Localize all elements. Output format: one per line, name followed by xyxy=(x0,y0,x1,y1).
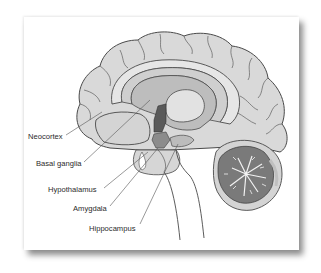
label-hippocampus: Hippocampus xyxy=(89,224,136,233)
cerebellum xyxy=(213,140,282,210)
label-neocortex: Neocortex xyxy=(28,132,63,141)
label-amygdala: Amygdala xyxy=(73,204,108,213)
brain-diagram: Neocortex Basal ganglia Hypothalamus Amy… xyxy=(0,0,321,273)
label-basal-ganglia: Basal ganglia xyxy=(36,159,82,168)
label-hypothalamus: Hypothalamus xyxy=(48,185,97,194)
temporal-lobe xyxy=(95,112,149,145)
thalamus xyxy=(166,90,205,122)
